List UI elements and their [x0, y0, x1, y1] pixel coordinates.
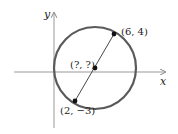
diagram-canvas: y x (6, 4) (?, ?) (2, −3): [0, 0, 178, 134]
point-top: [112, 32, 117, 37]
x-axis-label: x: [160, 76, 166, 87]
y-axis-label: y: [44, 9, 50, 20]
point-bottom: [73, 99, 78, 104]
center-label: (?, ?): [70, 60, 95, 70]
point-bottom-label: (2, −3): [60, 106, 95, 116]
point-top-label: (6, 4): [121, 27, 148, 37]
